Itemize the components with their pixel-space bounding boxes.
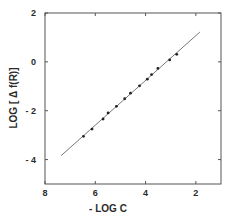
y-tick-label: 0: [31, 57, 36, 67]
data-point: [102, 118, 105, 121]
x-axis-tick-labels: 8642: [42, 188, 198, 198]
y-axis-ticks: [45, 13, 221, 160]
x-tick-label: 8: [42, 188, 47, 198]
data-point: [115, 105, 118, 108]
data-point: [82, 135, 85, 138]
x-axis-ticks: [45, 13, 196, 184]
x-tick-label: 2: [193, 188, 198, 198]
data-point: [123, 97, 126, 100]
y-axis-title: LOG [ Δ f(R)]: [8, 67, 19, 128]
data-point: [146, 78, 149, 81]
data-point: [168, 59, 171, 62]
y-axis-tick-labels: 20- 2- 4: [25, 8, 36, 165]
y-tick-label: - 4: [25, 155, 36, 165]
data-points: [82, 53, 178, 138]
plot-frame: [45, 13, 221, 184]
x-axis-title: - LOG C: [89, 203, 127, 214]
y-tick-label: - 2: [25, 106, 36, 116]
x-tick-label: 6: [93, 188, 98, 198]
chart: 8642 20- 2- 4 - LOG C LOG [ Δ f(R)]: [0, 0, 230, 222]
y-tick-label: 2: [31, 8, 36, 18]
x-tick-label: 4: [143, 188, 148, 198]
data-point: [107, 112, 110, 115]
data-point: [138, 84, 141, 87]
data-point: [175, 53, 178, 56]
data-point: [129, 92, 132, 95]
data-point: [91, 128, 94, 131]
data-point: [150, 73, 153, 76]
data-point: [156, 67, 159, 70]
